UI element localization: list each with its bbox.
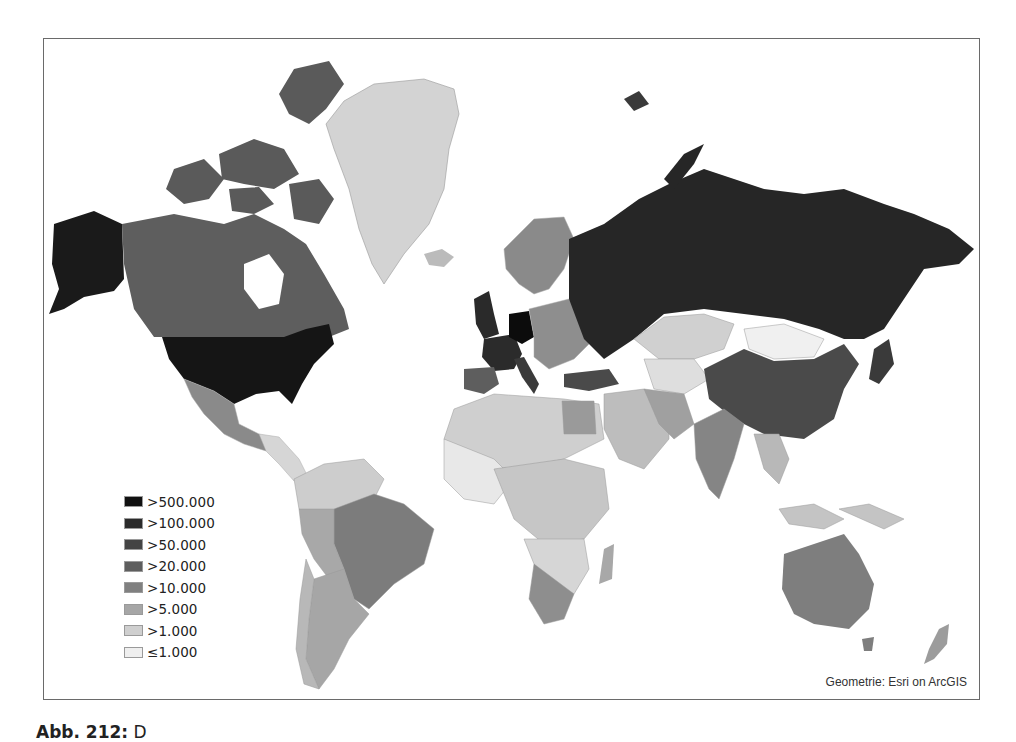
region-svalbard bbox=[624, 91, 649, 111]
legend-label: >100.000 bbox=[147, 515, 215, 531]
legend-label: >10.000 bbox=[147, 580, 206, 596]
caption-prefix: Abb. 212: bbox=[36, 722, 128, 742]
region-canada bbox=[122, 214, 349, 339]
region-se-asia bbox=[754, 434, 789, 484]
legend-item: >50.000 bbox=[124, 534, 215, 556]
legend-label: >5.000 bbox=[147, 601, 198, 617]
region-mongolia bbox=[744, 324, 824, 359]
figure-caption: Abb. 212: D bbox=[36, 722, 147, 742]
legend-item: >100.000 bbox=[124, 513, 215, 535]
legend-swatch bbox=[124, 582, 143, 593]
legend-label: >50.000 bbox=[147, 537, 206, 553]
legend-item: >500.000 bbox=[124, 491, 215, 513]
legend-swatch bbox=[124, 561, 143, 572]
region-new-zealand bbox=[924, 624, 949, 664]
legend-label: ≤1.000 bbox=[147, 644, 198, 660]
region-uk bbox=[474, 291, 499, 339]
map-attribution: Geometrie: Esri on ArcGIS bbox=[826, 675, 967, 689]
region-turkey bbox=[564, 369, 619, 391]
region-alaska bbox=[49, 211, 124, 314]
legend-item: >20.000 bbox=[124, 556, 215, 578]
legend-item: >1.000 bbox=[124, 620, 215, 642]
region-central-africa bbox=[494, 459, 609, 544]
legend-label: >20.000 bbox=[147, 558, 206, 574]
region-central-america bbox=[259, 434, 309, 481]
region-central-asia bbox=[644, 359, 709, 394]
region-india bbox=[694, 409, 744, 499]
region-scandinavia bbox=[504, 217, 574, 294]
region-canada-islands bbox=[166, 61, 344, 224]
legend-swatch bbox=[124, 647, 143, 658]
map-frame: >500.000 >100.000 >50.000 >20.000 >10.00… bbox=[43, 38, 980, 700]
legend-label: >500.000 bbox=[147, 494, 215, 510]
region-australia bbox=[782, 534, 874, 629]
caption-text: D bbox=[128, 722, 147, 742]
legend-swatch bbox=[124, 518, 143, 529]
legend-item: ≤1.000 bbox=[124, 642, 215, 664]
map-legend: >500.000 >100.000 >50.000 >20.000 >10.00… bbox=[124, 491, 215, 663]
legend-label: >1.000 bbox=[147, 623, 198, 639]
region-iceland bbox=[424, 249, 454, 267]
legend-swatch bbox=[124, 496, 143, 507]
region-spain bbox=[464, 367, 499, 394]
region-madagascar bbox=[599, 544, 614, 584]
region-egypt bbox=[562, 401, 596, 434]
region-japan bbox=[869, 339, 894, 384]
legend-swatch bbox=[124, 539, 143, 550]
legend-item: >5.000 bbox=[124, 599, 215, 621]
legend-item: >10.000 bbox=[124, 577, 215, 599]
region-indonesia bbox=[779, 504, 904, 529]
legend-swatch bbox=[124, 625, 143, 636]
region-italy bbox=[514, 357, 539, 394]
region-tasmania bbox=[862, 637, 874, 651]
legend-swatch bbox=[124, 604, 143, 615]
